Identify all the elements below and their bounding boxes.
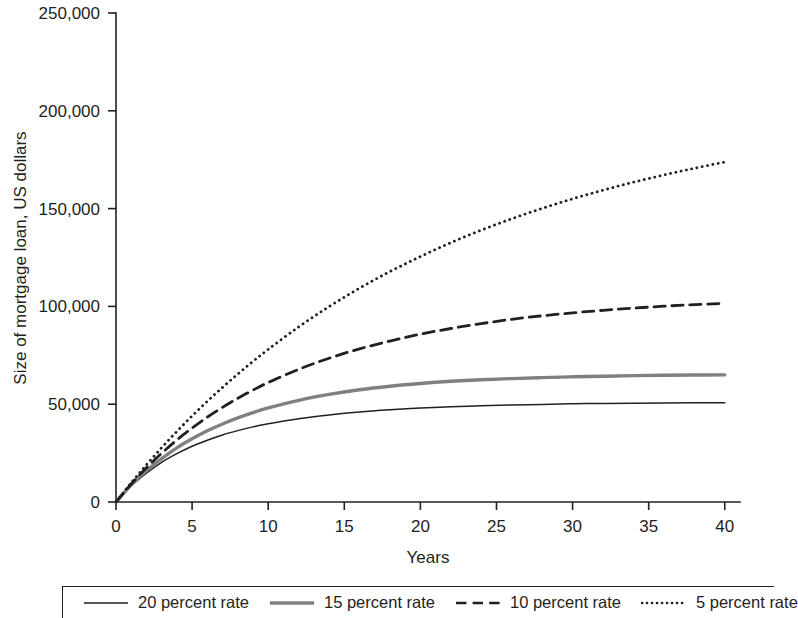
x-axis-title: Years [407, 548, 450, 567]
y-axis-ticks [108, 13, 116, 502]
y-tick-label: 0 [91, 493, 100, 512]
x-tick-label: 0 [111, 517, 120, 536]
series-line-5-percent-rate [116, 162, 725, 502]
x-tick-label: 25 [487, 517, 506, 536]
legend-swatch-dashed [455, 596, 501, 610]
chart-plot-area: 050,000100,000150,000200,000250,000 0510… [0, 0, 770, 580]
x-tick-label: 30 [563, 517, 582, 536]
y-tick-label: 200,000 [39, 102, 100, 121]
legend-item-10-percent-rate[interactable]: 10 percent rate [435, 587, 621, 618]
x-axis-group: 0510152025303540 [111, 502, 740, 536]
legend-item-5-percent-rate[interactable]: 5 percent rate [621, 587, 798, 618]
legend-label: 20 percent rate [138, 593, 249, 612]
y-tick-label: 50,000 [48, 395, 100, 414]
chart-legend: 20 percent rate15 percent rate10 percent… [62, 586, 774, 618]
x-axis-ticks [116, 502, 725, 510]
legend-label: 15 percent rate [324, 593, 435, 612]
x-tick-label: 35 [639, 517, 658, 536]
legend-item-15-percent-rate[interactable]: 15 percent rate [249, 587, 435, 618]
x-axis-tick-labels: 0510152025303540 [111, 517, 734, 536]
x-tick-label: 10 [259, 517, 278, 536]
y-axis-group: 050,000100,000150,000200,000250,000 [39, 4, 116, 512]
legend-swatch-dotted [641, 596, 687, 610]
x-tick-label: 15 [335, 517, 354, 536]
legend-label: 5 percent rate [696, 593, 798, 612]
legend-swatch-solid [269, 596, 315, 610]
x-tick-label: 40 [715, 517, 734, 536]
legend-label: 10 percent rate [510, 593, 621, 612]
series-line-15-percent-rate [116, 375, 725, 502]
y-tick-label: 100,000 [39, 297, 100, 316]
legend-swatch-solid [83, 596, 129, 610]
x-tick-label: 20 [411, 517, 430, 536]
y-axis-tick-labels: 050,000100,000150,000200,000250,000 [39, 4, 100, 512]
y-tick-label: 250,000 [39, 4, 100, 23]
y-axis-title: Size of mortgage loan, US dollars [11, 131, 30, 384]
data-series-group [116, 162, 725, 502]
x-tick-label: 5 [187, 517, 196, 536]
legend-item-20-percent-rate[interactable]: 20 percent rate [63, 587, 249, 618]
y-tick-label: 150,000 [39, 200, 100, 219]
